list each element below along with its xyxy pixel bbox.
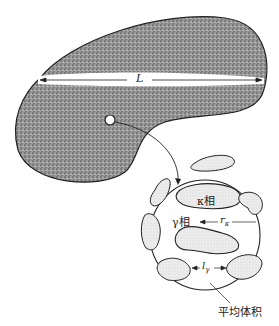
r-subscript: κ: [225, 220, 230, 228]
inner-region-lower: [175, 227, 239, 254]
boundary-region: [191, 155, 235, 171]
average-volume-label: 平均体积: [218, 303, 262, 319]
boundary-region: [157, 258, 190, 280]
l-gamma-label: lγ: [202, 260, 209, 274]
r-kappa-label: rκ: [220, 214, 229, 228]
diagram-canvas: [0, 0, 279, 326]
boundary-region: [150, 179, 170, 206]
kappa-phase-label: κ相: [197, 192, 215, 208]
boundary-region: [227, 255, 262, 280]
l-subscript: γ: [205, 266, 209, 274]
sample-point: [105, 115, 115, 125]
boundary-region: [141, 214, 160, 250]
length-label: L: [136, 72, 143, 85]
boundary-region: [239, 192, 263, 214]
gamma-phase-label: γ相: [172, 213, 190, 229]
